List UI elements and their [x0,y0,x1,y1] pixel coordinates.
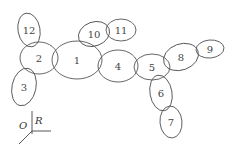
node-5: 5 [134,54,170,80]
node-8: 8 [160,39,203,76]
node-label: 2 [36,53,42,64]
axis-diagonal [19,131,32,144]
node-11: 11 [106,19,136,41]
ellipse-diagram: 122311011458967 O R [0,0,237,151]
node-label: 12 [23,25,36,36]
node-label: 8 [178,52,184,63]
node-12: 12 [15,11,43,48]
node-4: 4 [98,50,138,82]
r-label: R [34,115,43,126]
node-label: 6 [158,88,164,99]
node-label: 7 [168,117,174,128]
node-label: 4 [115,61,121,72]
node-label: 3 [21,82,27,93]
node-label: 10 [88,29,101,40]
node-9: 9 [195,39,224,59]
axes: O R [19,111,51,144]
origin-label: O [19,120,27,131]
node-label: 1 [74,55,80,66]
node-6: 6 [147,73,175,112]
node-7: 7 [159,105,184,139]
node-label: 9 [207,44,213,55]
node-3: 3 [8,66,39,108]
node-label: 5 [149,62,155,73]
node-label: 11 [115,25,128,36]
